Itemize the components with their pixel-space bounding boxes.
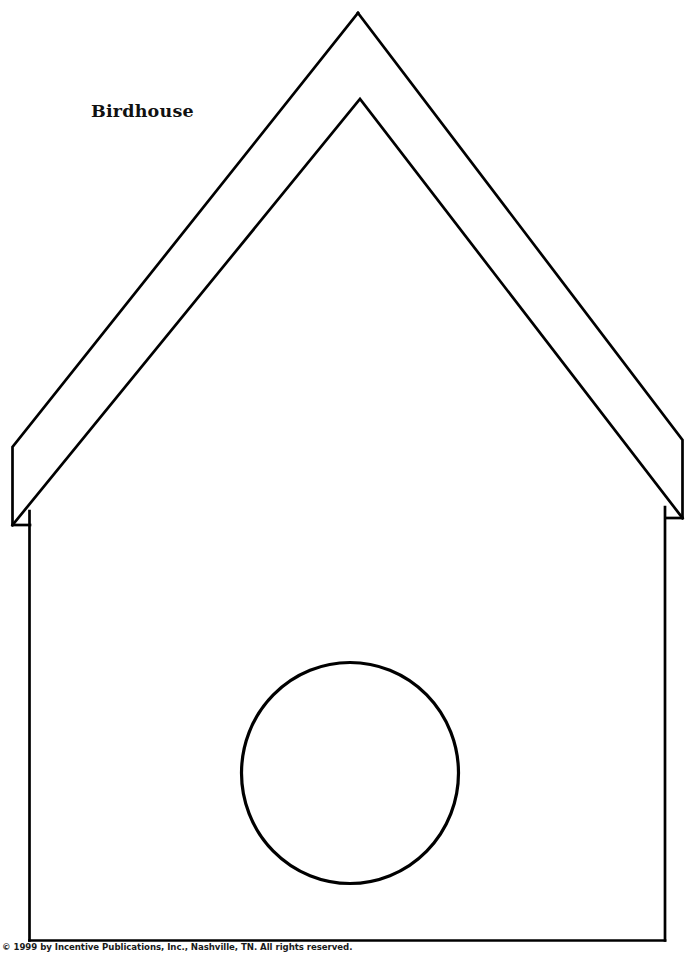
page-title: Birdhouse <box>91 103 194 121</box>
entrance-hole-circle <box>242 663 459 884</box>
roof-right-outer-edge <box>358 13 683 518</box>
pattern-page: Birdhouse © 1999 by Incentive Publicatio… <box>0 0 688 954</box>
roof-inner-edge <box>13 99 683 525</box>
roof-left-outer-edge <box>13 13 359 525</box>
birdhouse-line-art <box>13 13 683 941</box>
copyright-notice: © 1999 by Incentive Publications, Inc., … <box>2 943 352 952</box>
birdhouse-illustration <box>0 0 688 954</box>
